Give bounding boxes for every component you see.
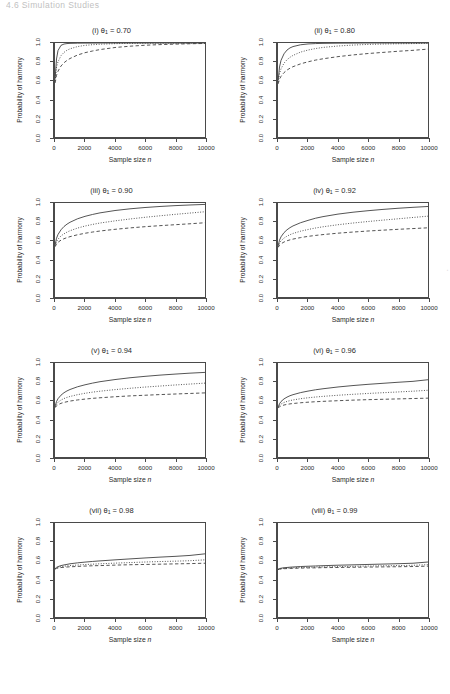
- y-tick-label-text: 0.6: [256, 76, 266, 85]
- y-tick-label-text: 0.6: [33, 396, 43, 405]
- y-tick-label-text: 0.8: [33, 217, 43, 226]
- x-tick-label: 8000: [392, 304, 406, 311]
- series-line-dashed: [55, 43, 205, 82]
- plot-area: [54, 202, 206, 298]
- y-tick-label-text: 0.2: [256, 434, 266, 443]
- series-line-solid: [278, 43, 428, 81]
- x-axis-tick: [84, 458, 85, 462]
- x-axis-tick: [54, 298, 55, 302]
- x-tick-label: 2000: [78, 464, 92, 471]
- x-axis-label-text: Sample size: [109, 316, 148, 323]
- x-axis-tick: [206, 298, 207, 302]
- x-axis-tick: [145, 138, 146, 142]
- x-axis-label-variable: n: [371, 316, 375, 323]
- panel-title-equals: =: [334, 506, 343, 515]
- series-line-dotted: [55, 43, 205, 81]
- y-axis-label: Probability of harmony: [14, 202, 26, 298]
- y-tick-label-text: 0.6: [33, 236, 43, 245]
- series-line-dashed: [278, 49, 428, 84]
- x-tick-label: 2000: [78, 624, 92, 631]
- y-axis: [44, 42, 54, 138]
- x-tick-label: 10000: [420, 144, 437, 151]
- panel-title: (vi) θ1 = 0.96: [223, 346, 446, 355]
- x-tick-label: 6000: [361, 144, 375, 151]
- panel-title-value: 0.70: [116, 26, 131, 35]
- y-tick-label-text: 0.0: [33, 454, 43, 463]
- series-line-solid: [278, 562, 428, 569]
- panel-title: (viii) θ1 = 0.99: [223, 506, 446, 515]
- x-tick-label: 4000: [108, 304, 122, 311]
- y-tick-label-text: 1.0: [33, 518, 43, 527]
- panel-title: (ii) θ1 = 0.80: [223, 26, 446, 35]
- x-axis-label: Sample size n: [277, 156, 429, 163]
- x-axis-tick: [54, 458, 55, 462]
- panel-title-index: (v): [91, 346, 100, 355]
- x-axis: 0200040006000800010000: [277, 138, 429, 144]
- x-axis-tick: [277, 618, 278, 622]
- panel-title: (v) θ1 = 0.94: [0, 346, 223, 355]
- y-tick-label-text: 0.2: [256, 274, 266, 283]
- x-axis-label: Sample size n: [54, 476, 206, 483]
- series-line-solid: [278, 206, 428, 245]
- plot-area: [277, 42, 429, 138]
- y-tick-label-text: 0.4: [33, 575, 43, 584]
- plot-area: [54, 522, 206, 618]
- x-tick-label: 6000: [138, 464, 152, 471]
- x-axis-tick: [84, 618, 85, 622]
- x-axis-label-variable: n: [148, 636, 152, 643]
- y-axis-label: Probability of harmony: [237, 42, 249, 138]
- chart-panel-5: (v) θ1 = 0.94Probability of harmony0.00.…: [0, 342, 223, 502]
- y-tick-label-text: 0.4: [256, 415, 266, 424]
- x-tick-label: 4000: [331, 624, 345, 631]
- x-axis-label-variable: n: [148, 156, 152, 163]
- y-tick-label-text: 0.8: [33, 537, 43, 546]
- x-tick-label: 0: [275, 144, 278, 151]
- y-axis: [44, 522, 54, 618]
- x-tick-label: 8000: [169, 304, 183, 311]
- x-axis-tick: [307, 138, 308, 142]
- x-axis-tick: [176, 458, 177, 462]
- x-axis-tick: [429, 458, 430, 462]
- x-axis-tick: [368, 298, 369, 302]
- x-axis-label-variable: n: [371, 636, 375, 643]
- panel-title-value: 0.90: [118, 186, 133, 195]
- series-line-dotted: [278, 43, 428, 82]
- x-axis-tick: [429, 618, 430, 622]
- x-axis-tick: [399, 458, 400, 462]
- x-axis-tick: [307, 298, 308, 302]
- panel-title-index: (viii): [311, 506, 325, 515]
- x-axis-label-text: Sample size: [332, 476, 371, 483]
- plot-area: [277, 522, 429, 618]
- x-axis-tick: [429, 138, 430, 142]
- panel-title-equals: =: [332, 26, 341, 35]
- panel-title-index: (i): [92, 26, 99, 35]
- y-tick-label-text: 0.2: [33, 274, 43, 283]
- plot-area: [54, 362, 206, 458]
- x-axis-tick: [277, 458, 278, 462]
- x-axis-line: [277, 458, 429, 459]
- chart-panel-7: (vii) θ1 = 0.98Probability of harmony0.0…: [0, 502, 223, 670]
- x-axis-tick: [206, 618, 207, 622]
- panel-title-equals: =: [333, 346, 342, 355]
- x-axis-tick: [307, 458, 308, 462]
- x-axis-label-text: Sample size: [332, 156, 371, 163]
- x-axis-label: Sample size n: [277, 476, 429, 483]
- x-axis-label-variable: n: [371, 156, 375, 163]
- x-tick-label: 8000: [169, 624, 183, 631]
- x-axis-tick: [338, 298, 339, 302]
- x-tick-label: 2000: [78, 304, 92, 311]
- y-tick-label-text: 0.2: [33, 114, 43, 123]
- x-axis-label: Sample size n: [277, 636, 429, 643]
- x-axis-label-text: Sample size: [109, 636, 148, 643]
- x-tick-label: 10000: [197, 304, 214, 311]
- panel-title-index: (iv): [313, 186, 323, 195]
- y-tick-label-text: 0.8: [256, 57, 266, 66]
- y-tick-label-text: 1.0: [256, 358, 266, 367]
- x-axis-label-variable: n: [148, 316, 152, 323]
- y-tick-label-text: 0.2: [33, 594, 43, 603]
- x-tick-label: 4000: [108, 144, 122, 151]
- panel-title-index: (ii): [314, 26, 322, 35]
- x-tick-label: 10000: [420, 464, 437, 471]
- x-tick-label: 4000: [331, 304, 345, 311]
- x-axis-tick: [84, 138, 85, 142]
